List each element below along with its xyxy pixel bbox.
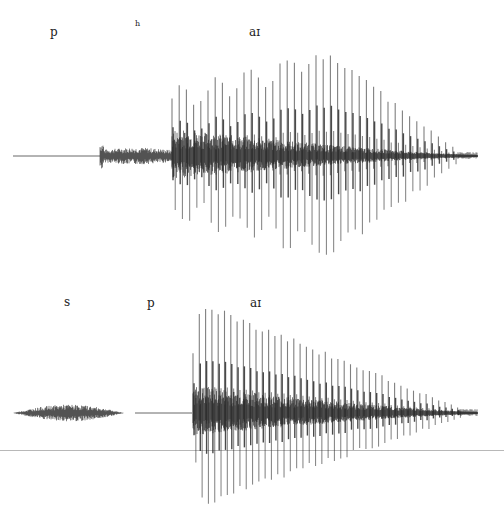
waveform-plot xyxy=(0,0,504,521)
